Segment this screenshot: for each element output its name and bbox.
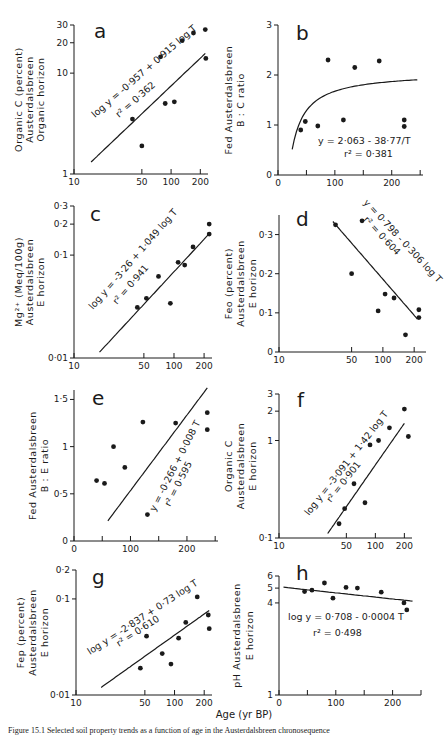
data-point xyxy=(322,581,327,586)
data-point xyxy=(203,27,208,32)
y-tick-label: 3 xyxy=(266,20,272,30)
panel-label: b xyxy=(296,21,309,45)
y-axis-label: E horizon xyxy=(39,608,50,658)
data-point xyxy=(326,58,331,63)
y-axis-label: Austerdalsbreen xyxy=(27,589,38,676)
y-tick-label: 0·2 xyxy=(54,219,68,229)
r-squared-label: r² = 0·498 xyxy=(313,627,362,638)
y-axis-label: B : E ratio xyxy=(39,439,50,492)
data-point xyxy=(138,666,143,671)
x-tick-label: 100 xyxy=(165,361,182,371)
data-point xyxy=(160,651,165,656)
panel-label: c xyxy=(90,202,101,226)
y-axis-label: Mg²⁺ (Meq/100g) xyxy=(13,237,24,327)
panel-d: 105010020000·10·20·3dFeo (percent)Auster… xyxy=(223,197,445,365)
y-tick-label: 20 xyxy=(57,38,69,48)
y-tick-label: 0·2 xyxy=(259,269,273,279)
x-tick-label: 0 xyxy=(71,544,77,554)
data-point xyxy=(376,309,381,314)
data-point xyxy=(402,601,407,606)
y-tick-label: 4 xyxy=(267,598,273,608)
x-tick-label: 0 xyxy=(276,698,282,708)
y-tick-label: 0·1 xyxy=(259,308,273,318)
y-tick-label: 0·5 xyxy=(54,489,68,499)
x-tick-label: 10 xyxy=(273,355,285,365)
regression-equation: log y = 0·708 - 0·0004 T xyxy=(288,611,404,622)
y-axis-label: Organic C xyxy=(223,440,234,492)
y-tick-label: 0·1 xyxy=(259,533,273,543)
y-axis-label: E horizon xyxy=(247,259,258,309)
data-point xyxy=(341,118,346,123)
regression-line xyxy=(284,587,413,601)
y-tick-label: 0·3 xyxy=(259,230,273,240)
data-point xyxy=(416,315,421,320)
data-point xyxy=(303,119,308,124)
data-point xyxy=(404,608,409,613)
y-axis-label: Austerdalsbreen xyxy=(235,240,246,327)
data-point xyxy=(349,271,354,276)
data-point xyxy=(195,594,200,599)
data-point xyxy=(173,421,178,426)
data-point xyxy=(163,101,168,106)
y-tick-label: 0 xyxy=(267,347,273,357)
y-axis-label: Austerdalsbreen xyxy=(235,423,246,510)
data-point xyxy=(205,427,210,432)
data-point xyxy=(168,301,173,306)
data-point xyxy=(383,292,388,297)
y-tick-label: 0·2 xyxy=(56,565,70,575)
x-tick-label: 100 xyxy=(122,544,139,554)
y-tick-label: 2 xyxy=(267,406,273,416)
y-axis-label: Fed Austerdalsbreen xyxy=(27,411,38,520)
data-point xyxy=(144,634,149,639)
data-point xyxy=(139,143,144,148)
data-point xyxy=(310,588,315,593)
y-tick-label: 0·01 xyxy=(48,353,68,363)
data-point xyxy=(302,589,307,594)
y-tick-label: 1 xyxy=(266,120,272,130)
x-tick-label: 50 xyxy=(346,355,358,365)
data-point xyxy=(387,425,392,430)
x-tick-label: 200 xyxy=(384,698,401,708)
y-axis-label: E horizon xyxy=(247,441,258,491)
x-tick-label: 200 xyxy=(406,355,423,365)
x-tick-label: 10 xyxy=(68,361,80,371)
y-tick-label: 0·1 xyxy=(54,250,68,260)
y-axis-label: Organic horizon xyxy=(35,57,46,141)
x-tick-label: 100 xyxy=(374,355,391,365)
y-tick-label: 5 xyxy=(267,583,273,593)
data-point xyxy=(140,420,145,425)
regression-equation: y = 0·798 - 0·306 log T xyxy=(362,197,445,285)
x-tick-label: 200 xyxy=(383,178,400,188)
data-point xyxy=(352,481,357,486)
panel-label: f xyxy=(297,388,305,412)
data-point xyxy=(145,512,150,517)
panel-e: 010020000·511·5eFed AusterdalsbreenB : E… xyxy=(27,386,218,554)
data-point xyxy=(135,305,140,310)
x-tick-label: 50 xyxy=(341,541,353,551)
data-point xyxy=(355,586,360,591)
regression-equation: y = 2·063 - 38·77/T xyxy=(318,135,411,146)
data-point xyxy=(206,613,211,618)
y-tick-label: 30 xyxy=(57,20,69,30)
x-tick-label: 100 xyxy=(162,177,179,187)
y-tick-label: 0 xyxy=(266,170,272,180)
y-axis-label: B : C ratio xyxy=(235,73,246,127)
data-point xyxy=(342,506,347,511)
data-point xyxy=(379,590,384,595)
panel-b: 01002000123bFed AusterdalsbreenB : C rat… xyxy=(223,20,423,188)
x-tick-label: 10 xyxy=(68,177,80,187)
y-axis-label: Austerdalsbreen xyxy=(24,56,35,143)
panel-g: 10501002000·010·10·2gFep (percent)Auster… xyxy=(15,565,213,708)
r-squared-label: r² = 0·381 xyxy=(344,148,393,159)
data-point xyxy=(176,636,181,641)
data-point xyxy=(130,117,135,122)
y-tick-label: 1 xyxy=(267,436,273,446)
x-tick-label: 50 xyxy=(138,361,150,371)
data-point xyxy=(344,585,349,590)
y-axis-label: Fep (percent) xyxy=(15,597,26,668)
y-tick-label: 1 xyxy=(62,169,68,179)
data-point xyxy=(402,118,407,123)
data-point xyxy=(402,407,407,412)
y-tick-label: 6 xyxy=(267,571,273,581)
data-point xyxy=(111,444,116,449)
